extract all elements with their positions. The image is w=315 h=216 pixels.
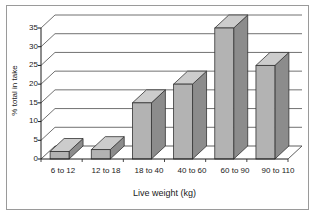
x-tick-label: 18 to 40 xyxy=(127,166,171,175)
bar xyxy=(256,52,289,159)
chart-figure: 35 30 25 20 15 10 5 0 6 to 12 xyxy=(0,0,315,216)
plot-area: 35 30 25 20 15 10 5 0 6 to 12 xyxy=(0,0,315,216)
bar xyxy=(50,139,83,159)
x-axis-tick-labels: 6 to 12 12 to 18 18 to 40 40 to 60 60 to… xyxy=(41,166,302,180)
x-tick-label: 40 to 60 xyxy=(170,166,214,175)
y-axis-title: % total in take xyxy=(10,48,19,134)
bar xyxy=(174,71,207,159)
x-tick-label: 12 to 18 xyxy=(84,166,128,175)
x-tick-label: 90 to 110 xyxy=(254,166,302,175)
axis-floor xyxy=(288,146,302,159)
bar xyxy=(132,90,165,159)
bar xyxy=(215,15,248,159)
bar xyxy=(91,137,124,159)
bar-series xyxy=(50,15,289,159)
chart-canvas xyxy=(0,0,315,216)
x-axis-title: Live weight (kg) xyxy=(41,188,288,198)
x-tick-label: 60 to 90 xyxy=(213,166,257,175)
x-tick-label: 6 to 12 xyxy=(41,166,85,175)
